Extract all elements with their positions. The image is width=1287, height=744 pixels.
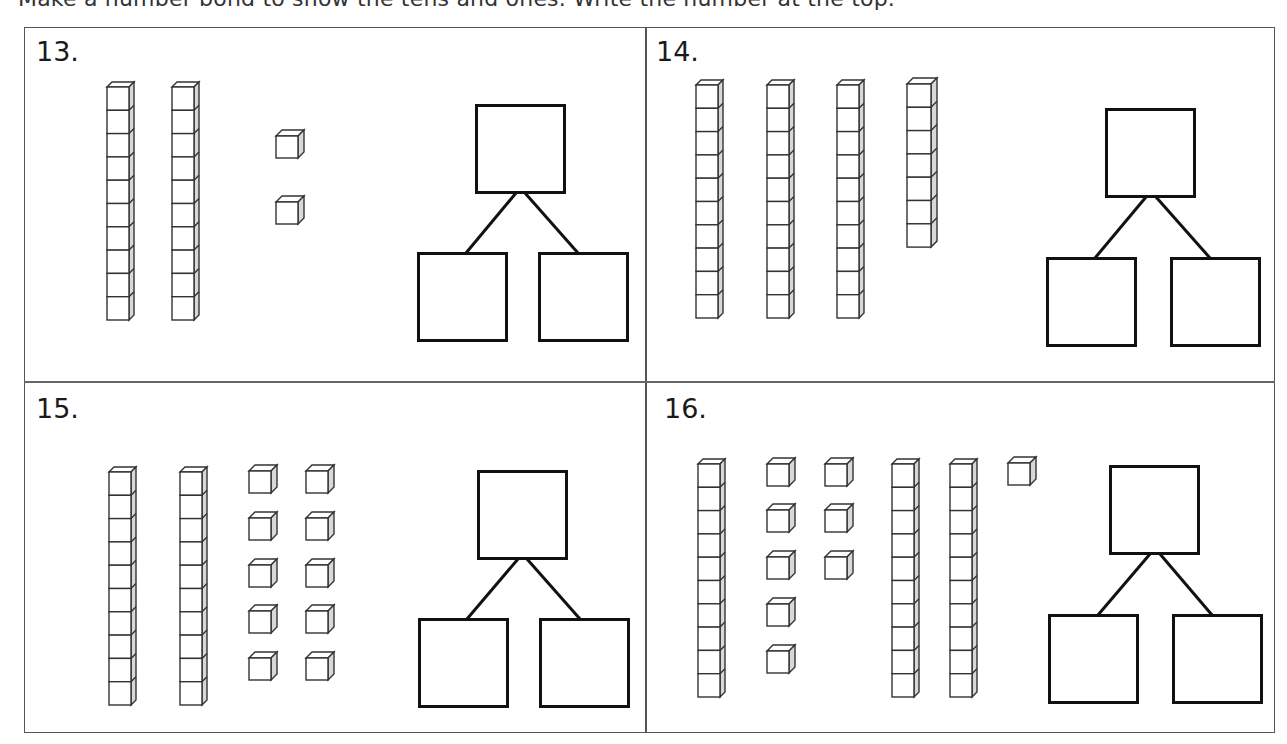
bond-connector-lines bbox=[0, 0, 1287, 744]
